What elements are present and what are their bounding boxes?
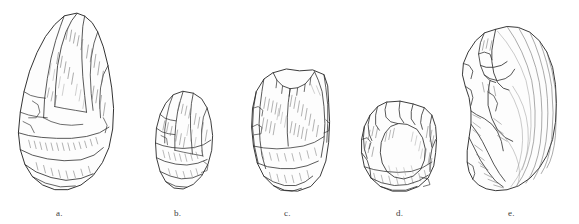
artifact-d-drawing <box>355 98 445 198</box>
caption-a: a. <box>56 208 63 218</box>
artifact-a-drawing <box>10 4 122 198</box>
artifact-e-drawing <box>452 22 564 198</box>
caption-d: d. <box>396 208 403 218</box>
artifact-c-drawing <box>245 64 339 198</box>
artifact-plate: a. b. c. d. e. <box>0 0 579 224</box>
caption-c: c. <box>284 208 291 218</box>
caption-b: b. <box>174 208 181 218</box>
caption-e: e. <box>508 208 515 218</box>
artifact-b-drawing <box>150 86 220 198</box>
